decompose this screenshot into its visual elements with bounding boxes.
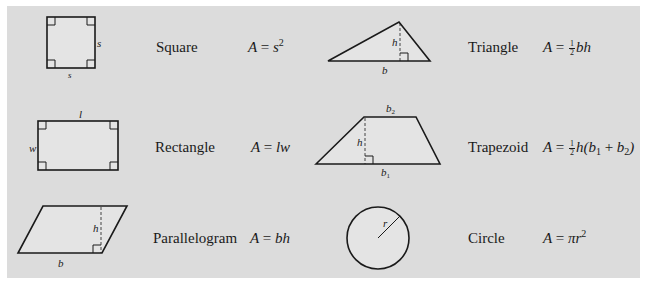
square-name: Square [156, 38, 198, 56]
square-formula: A = s2 [248, 38, 284, 56]
parallelogram-height-label: h [93, 222, 99, 234]
parallelogram-name: Parallelogram [153, 229, 237, 247]
triangle-base-label: b [382, 64, 388, 76]
fraction-half: 12 [569, 40, 575, 57]
rectangle-name: Rectangle [155, 138, 215, 156]
triangle-formula: A = 12bh [543, 38, 591, 57]
parallelogram-shape [18, 206, 127, 253]
square-shape [47, 17, 95, 68]
circle-formula: A = πr2 [543, 229, 586, 247]
rectangle-formula: A = lw [251, 138, 290, 156]
square-side-label: s [97, 37, 101, 49]
rectangle-length-label: l [79, 108, 82, 120]
trapezoid-shape [316, 117, 440, 164]
triangle-name: Triangle [468, 38, 518, 56]
trapezoid-base1-label: b1 [381, 166, 390, 178]
trapezoid-name: Trapezoid [468, 138, 528, 156]
parallelogram-base-label: b [58, 257, 64, 269]
triangle-shape [328, 22, 430, 61]
triangle-height-label: h [392, 36, 398, 48]
trapezoid-formula: A = 12h(b1 + b2) [543, 138, 634, 157]
circle-shape [347, 207, 409, 269]
fraction-half: 12 [569, 140, 575, 157]
square-bottom-label: s [68, 69, 72, 81]
trapezoid-height-label: h [357, 136, 363, 148]
trapezoid-base2-label: b2 [386, 102, 395, 114]
rectangle-shape [38, 121, 118, 170]
circle-name: Circle [468, 229, 505, 247]
rectangle-width-label: w [29, 142, 36, 154]
parallelogram-formula: A = bh [250, 229, 290, 247]
circle-radius-label: r [383, 217, 387, 229]
